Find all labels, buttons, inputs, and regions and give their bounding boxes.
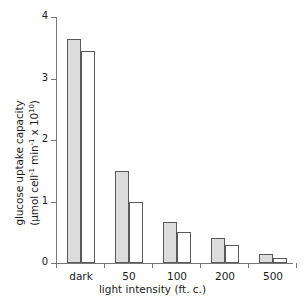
y-axis-line	[56, 17, 57, 263]
bar	[211, 238, 225, 263]
x-axis-category-label: dark	[69, 270, 93, 282]
x-axis-line	[56, 263, 293, 264]
x-axis-tick	[200, 263, 201, 268]
bar	[81, 51, 95, 263]
bar	[225, 245, 239, 263]
y-axis-title: glucose uptake capacity (µmol cell-1 min…	[0, 0, 40, 306]
x-axis-tick	[248, 263, 249, 268]
y-axis-tick: 2	[51, 140, 56, 141]
y-axis-tick-label: 3	[42, 72, 48, 83]
plot-area: 01234 dark50100200500	[56, 17, 291, 263]
x-axis-tick	[56, 263, 57, 268]
x-axis-category-label: 100	[167, 270, 187, 282]
y-axis-title-line1: glucose uptake capacity	[12, 48, 27, 278]
bar	[273, 258, 287, 263]
x-axis-tick	[152, 263, 153, 268]
bar	[177, 232, 191, 263]
x-axis-title: light intensity (ft. c.)	[0, 283, 305, 295]
bar-chart: glucose uptake capacity (µmol cell-1 min…	[0, 0, 305, 306]
y-axis-tick-label: 2	[42, 133, 48, 144]
bar	[163, 222, 177, 263]
y-axis-tick-label: 0	[42, 256, 48, 267]
x-axis-category-label: 200	[215, 270, 235, 282]
y-axis-tick-label: 1	[42, 195, 48, 206]
x-axis-tick	[296, 263, 297, 268]
y-axis-tick: 1	[51, 202, 56, 203]
y-axis-title-line2: (µmol cell-1 min-1 x 1010)	[27, 48, 42, 278]
x-axis-category-label: 50	[122, 270, 135, 282]
bar	[129, 202, 143, 263]
y-axis-tick: 3	[51, 79, 56, 80]
x-axis-tick	[104, 263, 105, 268]
y-axis-tick: 4	[51, 17, 56, 18]
y-axis-tick-label: 4	[42, 10, 48, 21]
x-axis-category-label: 500	[263, 270, 283, 282]
bar	[259, 254, 273, 263]
bar	[115, 171, 129, 263]
bar	[67, 39, 81, 263]
